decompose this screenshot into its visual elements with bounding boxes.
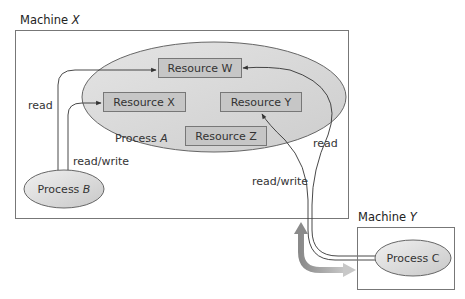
diagram-canvas: Machine X Process A Resource W Resource … — [0, 0, 465, 299]
machine-x-label: Machine X — [20, 13, 81, 27]
machine-y-label: Machine Y — [358, 210, 418, 224]
process-a-label: Process A — [115, 132, 168, 145]
resource-w-label: Resource W — [168, 62, 233, 75]
edge-label-readwrite-b: read/write — [73, 155, 129, 168]
process-c-label: Process C — [387, 252, 440, 265]
resource-z-label: Resource Z — [195, 130, 257, 143]
resource-w: Resource W — [159, 59, 242, 78]
edge-label-read-b: read — [28, 99, 53, 112]
process-b-label: Process B — [38, 183, 91, 196]
resource-z: Resource Z — [186, 127, 267, 146]
migration-arrow — [294, 222, 356, 277]
edge-label-readwrite-c: read/write — [252, 175, 308, 188]
resource-x-label: Resource X — [113, 96, 175, 109]
resource-y: Resource Y — [221, 93, 302, 112]
resource-y-label: Resource Y — [231, 96, 292, 109]
edge-label-read-c: read — [313, 137, 338, 150]
resource-x: Resource X — [104, 93, 186, 112]
